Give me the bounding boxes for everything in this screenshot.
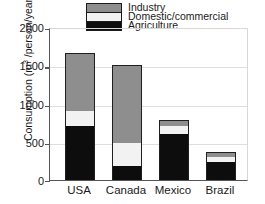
chart-figure: Industry Domestic/commercial Agriculture…	[0, 0, 265, 204]
xtick-label-brazil: Brazil	[206, 184, 235, 196]
ytick-0	[45, 181, 50, 182]
plot-area	[49, 28, 248, 181]
legend-label-group: Industry Domestic/commercial Agriculture	[128, 3, 228, 31]
ytick-label-1500: 1500	[0, 60, 44, 72]
ytick-1000	[45, 106, 50, 107]
bar-brazil[interactable]	[206, 152, 236, 180]
bar-mexico-segment-agriculture	[159, 134, 189, 180]
bar-mexico-segment-domestic	[159, 126, 189, 134]
legend-swatch-domestic	[87, 13, 121, 22]
bar-canada-segment-domestic	[112, 143, 142, 166]
bar-canada-segment-industry	[112, 65, 142, 143]
bar-usa-segment-industry	[65, 53, 95, 111]
ytick-label-2000: 2000	[0, 22, 44, 34]
bar-mexico[interactable]	[159, 120, 189, 180]
ytick-2000	[45, 29, 50, 30]
bar-mexico-segment-industry	[159, 120, 189, 127]
bar-usa[interactable]	[65, 53, 95, 180]
ytick-500	[45, 144, 50, 145]
ytick-label-1000: 1000	[0, 99, 44, 111]
bar-canada[interactable]	[112, 65, 142, 180]
xtick-label-canada: Canada	[106, 184, 146, 196]
ytick-label-500: 500	[0, 137, 44, 149]
legend-swatch-industry	[87, 4, 121, 13]
bar-canada-segment-agriculture	[112, 166, 142, 180]
bar-usa-segment-agriculture	[65, 126, 95, 180]
bar-brazil-segment-agriculture	[206, 162, 236, 180]
ytick-label-0: 0	[0, 175, 44, 187]
xtick-label-usa: USA	[67, 184, 91, 196]
bar-usa-segment-domestic	[65, 111, 95, 126]
ytick-1500	[45, 67, 50, 68]
xtick-label-mexico: Mexico	[155, 184, 191, 196]
legend-swatch-group	[86, 3, 122, 31]
chart-legend: Industry Domestic/commercial Agriculture	[86, 3, 228, 31]
